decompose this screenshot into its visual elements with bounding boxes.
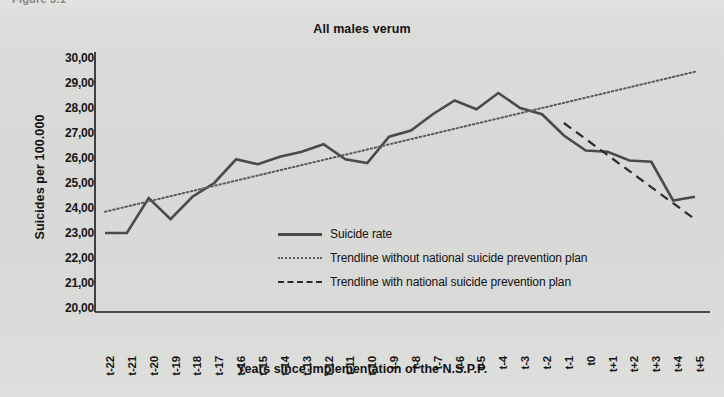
suicide-rate-line <box>105 93 695 233</box>
chart-legend: Suicide rateTrendline without national s… <box>278 222 587 294</box>
legend-item: Trendline with national suicide preventi… <box>278 270 587 294</box>
dashed-line-key <box>278 276 322 288</box>
series-layer <box>105 72 695 233</box>
legend-item: Trendline without national suicide preve… <box>278 246 587 270</box>
trendline-without-nspp <box>105 72 695 212</box>
trendline-with-nspp <box>564 123 695 219</box>
chart-plot-area: Suicides per 100.000 30,0029,0028,0027,0… <box>0 0 724 397</box>
legend-item: Suicide rate <box>278 222 587 246</box>
solid-line-key <box>278 228 322 240</box>
figure-page: Figure 3.1 All males verum Suicides per … <box>0 0 724 397</box>
chart-canvas <box>0 0 724 397</box>
dotted-line-key <box>278 252 322 264</box>
legend-item-label: Trendline with national suicide preventi… <box>330 275 571 289</box>
legend-item-label: Suicide rate <box>330 227 392 241</box>
legend-item-label: Trendline without national suicide preve… <box>330 251 587 265</box>
